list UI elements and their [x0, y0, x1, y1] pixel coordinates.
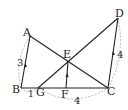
measure-cd: 4 — [117, 49, 123, 60]
geometry-diagram: A B G F C D E 3 1 4 4 — [0, 0, 128, 110]
label-f: F — [61, 88, 69, 101]
arc-gc — [38, 88, 108, 99]
arrow-mark-cd — [112, 51, 115, 55]
measure-gc: 4 — [74, 95, 80, 106]
measure-ab: 3 — [17, 57, 23, 68]
segment-ac — [30, 36, 108, 88]
label-d: D — [115, 7, 124, 20]
label-b: B — [12, 83, 20, 96]
label-c: C — [107, 85, 115, 98]
label-a: A — [22, 26, 32, 39]
arrow-mark-ef — [66, 73, 69, 77]
label-e: E — [63, 48, 71, 61]
measure-bg: 1 — [28, 89, 34, 99]
segment-gd — [38, 18, 118, 88]
label-g: G — [36, 86, 45, 99]
